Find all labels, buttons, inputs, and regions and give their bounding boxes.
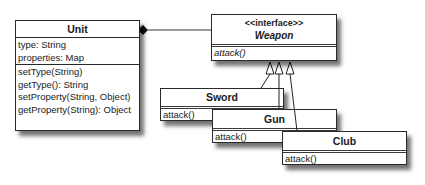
class-club-operations: attack() [283, 150, 406, 166]
operation-attack: attack() [214, 47, 336, 60]
class-unit-attributes: type: String properties: Map [16, 37, 139, 64]
class-unit[interactable]: Unit type: String properties: Map setTyp… [15, 20, 140, 131]
class-unit-name: Unit [16, 21, 139, 37]
attribute-type: type: String [18, 39, 139, 52]
class-unit-operations: setType(String) getType(): String setPro… [16, 64, 139, 116]
interface-weapon-header: <<interface>> Weapon [212, 15, 336, 44]
interface-stereotype: <<interface>> [212, 17, 336, 29]
sword-arrowhead-icon [266, 62, 274, 74]
operation-attack: attack() [285, 153, 406, 166]
interface-weapon-operations: attack() [212, 44, 336, 60]
operation-settype: setType(String) [18, 66, 139, 79]
gun-arrowhead-icon [275, 62, 283, 74]
interface-weapon-name: Weapon [212, 29, 336, 42]
operation-gettype: getType(): String [18, 79, 139, 92]
class-club[interactable]: Club attack() [282, 131, 407, 165]
club-arrowhead-icon [286, 62, 294, 74]
attribute-properties: properties: Map [18, 52, 139, 65]
sword-realization-line [261, 74, 270, 88]
operation-getproperty: getProperty(String): Object [18, 104, 139, 117]
class-gun-name: Gun [213, 110, 336, 128]
interface-weapon[interactable]: <<interface>> Weapon attack() [211, 14, 337, 61]
class-club-name: Club [283, 132, 406, 150]
class-sword-name: Sword [161, 89, 283, 106]
operation-setproperty: setProperty(String, Object) [18, 91, 139, 104]
